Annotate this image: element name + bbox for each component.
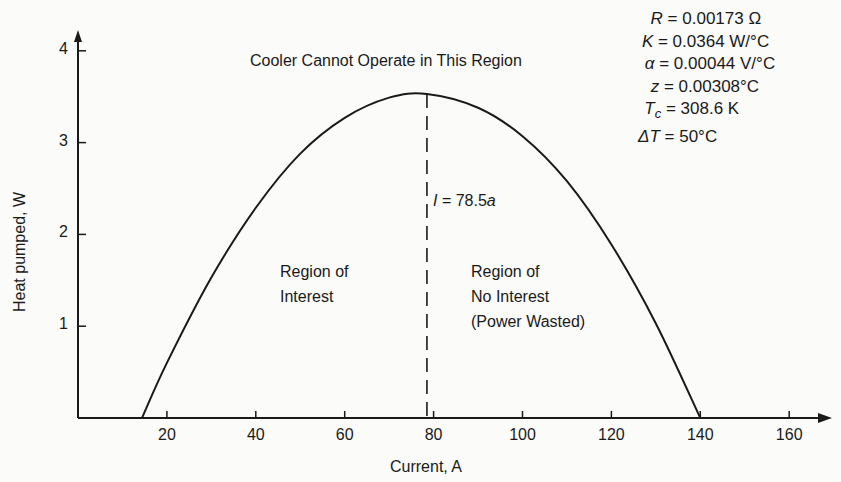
- y-tick-label: 4: [48, 40, 68, 58]
- x-tick-label: 20: [158, 426, 176, 444]
- peak-current-label: I = 78.5a: [433, 191, 496, 210]
- region-no-interest-line3: (Power Wasted): [471, 309, 585, 334]
- peak-current-eq: = 78.5: [437, 192, 486, 209]
- region-interest-line1: Region of: [280, 259, 349, 284]
- param-r: R = 0.00173 Ω: [638, 8, 761, 31]
- region-interest-line2: Interest: [280, 284, 349, 309]
- param-z: z = 0.00308°C: [638, 76, 759, 99]
- param-r-symbol: R: [651, 9, 663, 28]
- x-tick-label: 80: [425, 426, 443, 444]
- x-tick-label: 160: [776, 426, 803, 444]
- param-alpha-symbol: α: [645, 54, 655, 73]
- y-axis-label: Heat pumped, W: [11, 192, 29, 312]
- x-tick-label: 60: [336, 426, 354, 444]
- y-axis-arrow-icon: [74, 30, 82, 42]
- y-tick-label: 1: [48, 315, 68, 333]
- param-dt-value: = 50°C: [660, 127, 717, 146]
- heat-pumped-curve: [142, 93, 700, 418]
- x-tick-label: 140: [687, 426, 714, 444]
- x-axis: [78, 411, 832, 423]
- annotation-region-of-interest: Region of Interest: [280, 259, 349, 309]
- x-tick-label: 40: [247, 426, 265, 444]
- y-tick-label: 2: [48, 223, 68, 241]
- param-dt: ΔT = 50°C: [638, 126, 717, 149]
- x-tick-label: 120: [598, 426, 625, 444]
- param-dt-symbol: ΔT: [638, 127, 660, 146]
- param-z-value: = 0.00308°C: [659, 77, 759, 96]
- param-tc-symbol: T: [644, 99, 654, 118]
- param-r-value: = 0.00173 Ω: [663, 9, 761, 28]
- region-no-interest-line2: No Interest: [471, 284, 585, 309]
- param-k: K = 0.0364 W/°C: [638, 31, 769, 54]
- param-alpha: α = 0.00044 V/°C: [638, 53, 775, 76]
- x-axis-arrow-icon: [818, 413, 832, 423]
- param-k-symbol: K: [642, 32, 653, 51]
- param-tc-value: = 308.6 K: [661, 99, 739, 118]
- annotation-region-no-interest: Region of No Interest (Power Wasted): [471, 259, 585, 334]
- y-tick-label: 3: [48, 132, 68, 150]
- x-tick-label: 100: [509, 426, 536, 444]
- peak-current-unit: a: [487, 192, 496, 209]
- parameter-list: R = 0.00173 Ω K = 0.0364 W/°C α = 0.0004…: [638, 8, 769, 148]
- annotation-cannot-operate: Cooler Cannot Operate in This Region: [250, 51, 522, 70]
- region-no-interest-line1: Region of: [471, 259, 585, 284]
- x-axis-label: Current, A: [390, 457, 462, 476]
- param-z-symbol: z: [651, 77, 660, 96]
- param-tc: Tc = 308.6 K: [638, 98, 739, 126]
- param-alpha-value: = 0.00044 V/°C: [654, 54, 775, 73]
- y-axis: [74, 30, 86, 418]
- param-k-value: = 0.0364 W/°C: [653, 32, 769, 51]
